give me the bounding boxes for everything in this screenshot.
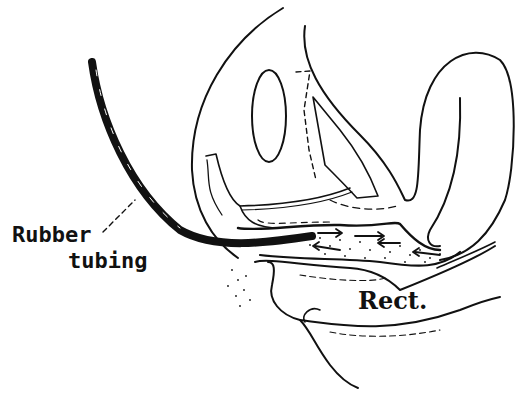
dashed-inner [258,220,330,223]
anatomy-drawing [0,0,525,396]
outer-contour [192,8,283,258]
right-lines [437,242,495,268]
rubber-tubing-label-line1: Rubber [12,222,147,248]
rubber-tubing-label-line2: tubing [12,248,147,274]
rubber-tubing-label: Rubber tubing [12,222,147,274]
diagram-figure: Rubber tubing Rect. [0,0,525,396]
lines-rect-dash [330,330,440,336]
dashed-floor [330,200,400,209]
left-fold [206,154,280,228]
lines-rect-dash-2 [300,275,385,281]
dashed-outline-a [296,71,316,180]
pubic-bone [252,70,286,162]
bladder-floor [240,188,350,206]
rectum-label: Rect. [358,286,427,315]
bladder-inner [313,97,378,198]
uterus [428,98,460,246]
rubber-tubing-highlight [96,70,180,228]
